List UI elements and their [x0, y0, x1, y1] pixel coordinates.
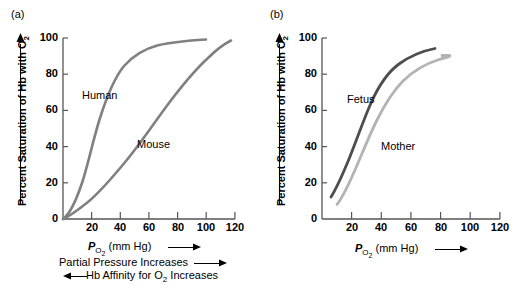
y-tick-a-60: 60 [26, 103, 58, 115]
x-label-arrowhead-b [460, 245, 470, 255]
annotation-b-pre: Hb Affinity for O [86, 269, 163, 281]
annotation-b-post: Increases [167, 269, 218, 281]
series-label-mother: Mother [381, 140, 415, 152]
x-label-rest-a: (mm Hg) [105, 240, 151, 252]
series-label-mouse: Mouse [137, 138, 170, 150]
x-tick-b-100: 100 [454, 221, 486, 233]
annotation-hb-affinity: Hb Affinity for O2 Increases [86, 269, 218, 284]
y-tick-a-40: 40 [26, 140, 58, 152]
annotation-b-arrow-line [70, 276, 87, 277]
panel-b-x-axis-label: PO2 (mm Hg) [355, 242, 418, 259]
panel-a-x-axis-label: PO2 (mm Hg) [88, 240, 151, 257]
y-tick-a-80: 80 [26, 67, 58, 79]
x-label-sub-a: O2 [95, 246, 105, 255]
curve-human [63, 40, 206, 220]
x-tick-a-100: 100 [190, 221, 222, 233]
curve-fetus [331, 49, 435, 198]
y-tick-a-20: 20 [26, 176, 58, 188]
panel-a: (a) Percent Saturation of Hb with O2 [0, 0, 259, 291]
y-tick-b-60: 60 [285, 103, 317, 115]
x-tick-a-40: 40 [104, 221, 136, 233]
x-label-arrowhead-a [193, 243, 203, 253]
x-label-sub-b: O2 [362, 248, 372, 257]
x-tick-a-120: 120 [219, 221, 251, 233]
annotation-partial-pressure: Partial Pressure Increases [59, 256, 188, 268]
y-tick-b-100: 100 [285, 31, 317, 43]
panel-b: (b) Percent Saturation of Hb with O2 [259, 0, 518, 291]
y-tick-a-0: 0 [26, 212, 58, 224]
y-tick-a-100: 100 [26, 31, 58, 43]
x-label-rest-b: (mm Hg) [372, 242, 418, 254]
x-tick-b-40: 40 [365, 221, 397, 233]
x-tick-b-80: 80 [425, 221, 457, 233]
x-tick-a-60: 60 [133, 221, 165, 233]
y-tick-b-80: 80 [285, 67, 317, 79]
annotation-a-arrowhead [219, 259, 229, 269]
x-tick-b-60: 60 [395, 221, 427, 233]
y-tick-b-0: 0 [285, 212, 317, 224]
y-tick-b-40: 40 [285, 140, 317, 152]
y-tick-b-20: 20 [285, 176, 317, 188]
x-tick-b-120: 120 [484, 221, 516, 233]
curve-mother [337, 55, 450, 204]
curve-mouse [63, 41, 231, 220]
annotation-b-arrowhead [63, 272, 73, 282]
x-label-arrow-line-a [168, 247, 196, 248]
series-label-fetus: Fetus [347, 93, 375, 105]
series-label-human: Human [82, 89, 117, 101]
figure-oxygen-dissociation-curves: (a) Percent Saturation of Hb with O2 [0, 0, 519, 291]
annotation-a-arrow-line [194, 263, 222, 264]
x-tick-b-20: 20 [336, 221, 368, 233]
x-label-arrow-line-b [435, 249, 463, 250]
